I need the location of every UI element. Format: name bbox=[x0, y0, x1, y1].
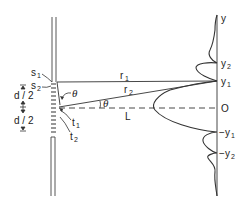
label-t2: t 2 bbox=[60, 117, 78, 143]
label-r1-sub: 1 bbox=[125, 75, 129, 82]
tick-origin: O bbox=[221, 103, 229, 114]
svg-text:t: t bbox=[70, 131, 73, 142]
barrier-upper bbox=[52, 17, 56, 82]
theta-arc bbox=[100, 101, 101, 108]
label-d-half-bottom: d / 2 bbox=[14, 115, 34, 126]
barrier-lower bbox=[51, 137, 55, 196]
label-t1: t 1 bbox=[59, 108, 80, 129]
label-y-axis: y bbox=[221, 13, 226, 24]
svg-text:y: y bbox=[221, 76, 226, 87]
label-theta-center: θ bbox=[103, 97, 109, 109]
svg-text:2: 2 bbox=[227, 63, 231, 70]
tick-y2: y 2 bbox=[221, 58, 231, 70]
svg-text:y: y bbox=[221, 58, 226, 69]
double-slit-diagram: s 1 s 2 d / 2 d / 2 θ t 1 t 2 r 1 bbox=[0, 0, 247, 208]
svg-text:1: 1 bbox=[76, 122, 80, 129]
svg-text:2: 2 bbox=[231, 153, 235, 160]
svg-text:1: 1 bbox=[227, 81, 231, 88]
label-r1: r bbox=[120, 70, 124, 81]
label-d-half-top: d / 2 bbox=[14, 90, 34, 101]
tick-neg-y1: − y 1 bbox=[219, 127, 235, 139]
intensity-curve bbox=[153, 15, 217, 196]
svg-text:t: t bbox=[72, 117, 75, 128]
tick-y1: y 1 bbox=[221, 76, 231, 88]
svg-text:y: y bbox=[225, 148, 230, 159]
svg-text:O: O bbox=[221, 103, 229, 114]
label-r2: r bbox=[124, 84, 128, 95]
label-r2-sub: 2 bbox=[129, 89, 133, 96]
svg-text:2: 2 bbox=[37, 85, 41, 92]
label-theta-slit: θ bbox=[72, 87, 78, 99]
ray-r1 bbox=[57, 81, 217, 82]
label-s2: s 2 bbox=[31, 80, 51, 92]
slit-hatching bbox=[51, 84, 56, 132]
svg-text:y: y bbox=[225, 127, 230, 138]
tick-neg-y2: − y 2 bbox=[219, 148, 235, 160]
svg-text:1: 1 bbox=[37, 72, 41, 79]
label-L: L bbox=[125, 111, 131, 122]
svg-text:2: 2 bbox=[74, 136, 78, 143]
svg-text:s: s bbox=[31, 67, 36, 78]
path-difference-line bbox=[57, 82, 60, 105]
svg-text:1: 1 bbox=[231, 132, 235, 139]
